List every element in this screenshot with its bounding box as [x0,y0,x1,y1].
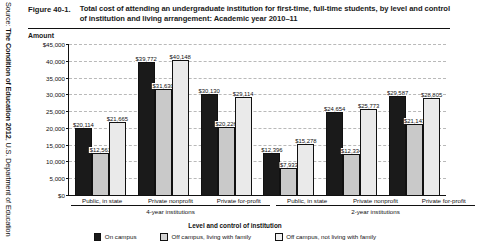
category-labels-row: Public, in statePrivate nonprofitPrivate… [68,197,478,204]
bar-group: $29,587$21,143$28,805 [383,44,446,195]
legend-item[interactable]: On campus [94,233,137,241]
bar-value-label: $12,396 [261,147,283,153]
bar[interactable]: $21,665 [109,122,126,195]
bar-value-label: $7,933 [279,162,298,168]
legend-item[interactable]: Off campus, living with family [160,233,251,241]
legend-swatch [275,233,283,241]
bar-value-label: $15,278 [295,138,317,144]
bar-groups: $20,114$12,561$21,665$39,772$31,630$40,1… [69,44,446,195]
bar[interactable]: $25,773 [360,109,377,195]
bar-group: $39,772$31,630$40,148 [132,44,195,195]
y-tick-label: 35,000 [46,74,69,81]
x-axis-title: Level and control of institution [18,222,452,229]
bar[interactable]: $30,130 [201,94,218,195]
figure-container: Figure 40-1. Total cost of attending an … [18,0,452,250]
legend-label: On campus [105,233,137,240]
level-labels-row: 4-year institutions2-year institutions [68,205,478,215]
bar[interactable]: $12,561 [92,153,109,195]
bar[interactable]: $20,226 [218,127,235,195]
category-label: Public, in state [273,197,341,204]
legend-item[interactable]: Off campus, not living with family [275,233,376,241]
source-note-text: Source: The Condition of Education 2012,… [4,2,13,236]
figure-header: Figure 40-1. Total cost of attending an … [18,0,452,25]
y-tick-label: 25,000 [46,108,69,115]
y-tick-label: 15,000 [46,141,69,148]
legend-label: Off campus, living with family [171,233,251,240]
bar[interactable]: $21,143 [406,124,423,195]
source-prefix: Source: [4,2,13,28]
y-tick-label: $45,000 [43,41,69,48]
bar-value-label: $21,665 [106,116,128,122]
bar[interactable]: $31,630 [155,89,172,195]
bar[interactable]: $28,805 [423,98,440,195]
bar-value-label: $25,773 [358,103,380,109]
bar[interactable]: $29,114 [235,97,252,195]
bar-group: $24,654$12,334$25,773 [320,44,383,195]
bar-group: $30,130$20,226$29,114 [195,44,258,195]
bar-value-label: $29,587 [386,90,408,96]
bar[interactable]: $7,933 [280,168,297,195]
source-publication: The Condition of Education 2012 [4,28,13,138]
bar-value-label: $39,772 [135,56,157,62]
bar[interactable]: $20,114 [75,128,92,195]
legend-label: Off campus, not living with family [286,233,376,240]
y-tick-label: 5,000 [50,175,69,182]
figure-number: Figure 40-1. [28,4,71,14]
y-tick-label: 40,000 [46,57,69,64]
bar-value-label: $29,114 [232,91,254,97]
bar-value-label: $24,654 [324,106,346,112]
legend-swatch [94,233,102,241]
bar-value-label: $20,114 [72,122,94,128]
category-label: Public, in state [68,197,136,204]
title-divider [28,28,450,29]
bar[interactable]: $12,334 [343,154,360,195]
bar-value-label: $28,805 [420,92,442,98]
figure-title: Total cost of attending an undergraduate… [80,4,450,25]
y-tick-label: 20,000 [46,124,69,131]
y-axis-title: Amount [28,32,452,39]
chart-axes: $45,00040,00035,00030,00025,00020,00015,… [68,44,446,196]
chart-legend: On campusOff campus, living with familyO… [18,233,452,241]
bar[interactable]: $24,654 [326,112,343,195]
bar-value-label: $40,148 [169,54,191,60]
level-label: 4-year institutions [71,205,270,215]
bar[interactable]: $39,772 [138,62,155,195]
bar[interactable]: $29,587 [389,96,406,195]
bar-group: $12,396$7,933$15,278 [257,44,320,195]
category-label: Private for-profit [410,197,478,204]
legend-swatch [160,233,168,241]
bar-value-label: $30,130 [198,88,220,94]
level-label: 2-year institutions [276,205,475,215]
bar[interactable]: $40,148 [172,60,189,195]
bar[interactable]: $12,396 [263,153,280,195]
bar[interactable]: $15,278 [297,144,314,195]
chart-plot-area: $45,00040,00035,00030,00025,00020,00015,… [28,44,448,196]
source-note: Source: The Condition of Education 2012,… [0,0,16,250]
y-tick-label: 10,000 [46,158,69,165]
y-tick-label: 30,000 [46,91,69,98]
category-label: Private nonprofit [341,197,409,204]
bar-group: $20,114$12,561$21,665 [69,44,132,195]
source-suffix: , U.S. Department of Education [4,139,13,237]
category-label: Private nonprofit [136,197,204,204]
category-label: Private for-profit [205,197,273,204]
